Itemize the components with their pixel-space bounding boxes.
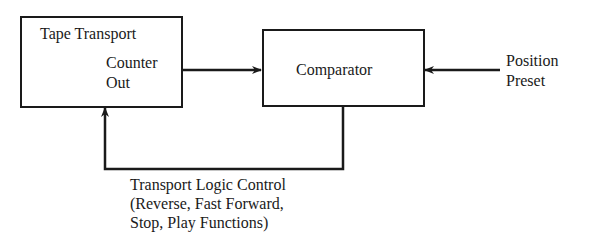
feedback-label-line1: Transport Logic Control	[130, 176, 286, 194]
tape-transport-title: Tape Transport	[40, 25, 136, 43]
position-preset-label-line1: Position	[506, 52, 558, 70]
feedback-loop-arrow	[105, 106, 343, 169]
feedback-label-line2: (Reverse, Fast Forward,	[130, 195, 284, 213]
counter-out-label-line2: Out	[106, 74, 130, 92]
feedback-label-line3: Stop, Play Functions)	[130, 214, 268, 232]
comparator-label: Comparator	[296, 61, 372, 79]
counter-out-label-line1: Counter	[106, 54, 158, 72]
position-preset-label-line2: Preset	[506, 72, 545, 90]
